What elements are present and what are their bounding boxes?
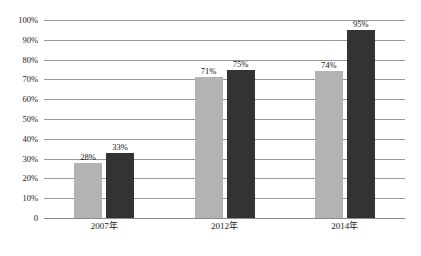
y-axis-tick-label: 40% xyxy=(0,134,38,143)
y-axis-tick-label: 0 xyxy=(0,214,38,223)
bar-groups-layer: 28%33%71%75%74%95% xyxy=(44,20,405,218)
y-axis-tick-label: 80% xyxy=(0,55,38,64)
bar-group: 28%33% xyxy=(74,20,134,218)
bar xyxy=(195,77,223,218)
y-axis-tick-label: 30% xyxy=(0,154,38,163)
y-axis-tick-labels: 010%20%30%40%50%60%70%80%90%100% xyxy=(0,20,40,218)
bar-value-label: 71% xyxy=(189,67,229,76)
bar-value-label: 74% xyxy=(309,61,349,70)
y-axis-tick-label: 100% xyxy=(0,16,38,25)
y-axis-tick-label: 50% xyxy=(0,115,38,124)
bar-value-label: 28% xyxy=(68,153,108,162)
bar-chart: 010%20%30%40%50%60%70%80%90%100% 28%33%7… xyxy=(0,0,421,256)
y-axis-tick-label: 10% xyxy=(0,194,38,203)
bar-group: 71%75% xyxy=(195,20,255,218)
x-axis-category-label: 2014年 xyxy=(300,221,390,232)
bar xyxy=(74,163,102,218)
y-axis-tick-label: 70% xyxy=(0,75,38,84)
bar-group: 74%95% xyxy=(315,20,375,218)
axis-baseline xyxy=(44,218,405,219)
y-axis-tick-label: 60% xyxy=(0,95,38,104)
bar xyxy=(347,30,375,218)
x-axis-category-label: 2012年 xyxy=(180,221,270,232)
bar xyxy=(227,70,255,219)
bar-value-label: 95% xyxy=(341,20,381,29)
bar-value-label: 33% xyxy=(100,143,140,152)
y-axis-tick-label: 90% xyxy=(0,35,38,44)
x-axis-category-labels: 2007年2012年2014年 xyxy=(44,221,405,237)
bar xyxy=(315,71,343,218)
bar xyxy=(106,153,134,218)
y-axis-tick-label: 20% xyxy=(0,174,38,183)
x-axis-category-label: 2007年 xyxy=(59,221,149,232)
bar-value-label: 75% xyxy=(221,60,261,69)
